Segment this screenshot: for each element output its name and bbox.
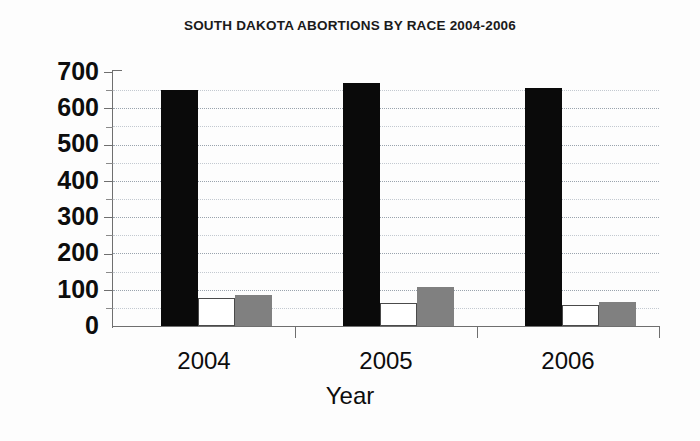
y-tick-450 [106,163,113,164]
y-tick-200 [104,254,113,255]
y-tick-700 [104,72,113,73]
x-tick-label-2004: 2004 [144,348,264,374]
y-tick-300 [104,217,113,218]
y-tick-150 [106,272,113,273]
y-tick-label-500: 500 [11,131,99,156]
x-axis-title: Year [0,382,700,410]
y-axis-top-cap [112,70,122,71]
bar-2004-black [161,90,198,326]
y-tick-400 [104,181,113,182]
bar-2004-gray [235,295,272,326]
x-tick-3 [659,326,660,338]
y-tick-500 [104,145,113,146]
x-tick-label-2006: 2006 [508,348,628,374]
bar-2005-white [380,303,417,326]
x-tick-1 [295,326,296,338]
x-axis-line [112,326,660,327]
y-tick-label-400: 400 [11,168,99,193]
y-tick-label-700: 700 [11,59,99,84]
bar-2006-black [525,88,562,326]
y-tick-100 [104,290,113,291]
y-tick-label-200: 200 [11,240,99,265]
y-tick-label-0: 0 [11,313,99,338]
y-tick-50 [106,308,113,309]
bar-2006-gray [599,302,636,326]
plot-area [113,72,659,326]
chart-figure: SOUTH DAKOTA ABORTIONS BY RACE 2004-2006… [0,0,700,441]
y-tick-350 [106,199,113,200]
x-tick-2 [477,326,478,338]
y-tick-650 [106,90,113,91]
y-tick-550 [106,127,113,128]
bar-2005-gray [417,287,454,326]
y-tick-label-300: 300 [11,204,99,229]
bar-2004-white [198,298,235,326]
bar-2005-black [343,83,380,326]
y-tick-label-600: 600 [11,95,99,120]
y-tick-600 [104,108,113,109]
y-tick-250 [106,235,113,236]
x-tick-label-2005: 2005 [326,348,446,374]
y-axis-labels: 700 600 500 400 300 200 100 0 [0,0,99,441]
y-tick-label-100: 100 [11,277,99,302]
bar-2006-white [562,305,599,326]
chart-title: SOUTH DAKOTA ABORTIONS BY RACE 2004-2006 [0,18,700,33]
